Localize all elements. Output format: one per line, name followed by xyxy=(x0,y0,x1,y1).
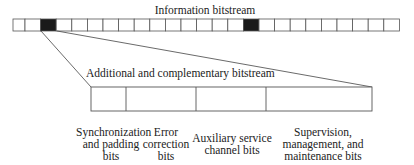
bit-cell xyxy=(275,19,291,31)
additional-bitstream-box xyxy=(91,87,372,111)
bit-cell xyxy=(306,19,322,31)
bit-cell xyxy=(321,19,337,31)
highlighted-bit-cell xyxy=(243,19,259,31)
bit-cell xyxy=(368,19,384,31)
bit-cell xyxy=(134,19,150,31)
information-bitstream-strip xyxy=(13,19,399,31)
bit-cell xyxy=(197,19,213,31)
bit-cell xyxy=(337,19,353,31)
bit-cell xyxy=(353,19,369,31)
bit-cell xyxy=(165,19,181,31)
bit-cell xyxy=(259,19,275,31)
bit-cell xyxy=(87,19,103,31)
bit-cell xyxy=(384,19,400,31)
bit-cell xyxy=(119,19,135,31)
information-bitstream-title: Information bitstream xyxy=(155,4,256,16)
segment-label-auxiliary: Auxiliary service channel bits xyxy=(190,132,274,156)
additional-bitstream-title: Additional and complementary bitstream xyxy=(86,67,275,79)
bit-cell xyxy=(72,19,88,31)
bit-cell xyxy=(228,19,244,31)
segment-label-error-correction: Error correction bits xyxy=(141,126,191,162)
bit-cell xyxy=(181,19,197,31)
bit-cell xyxy=(212,19,228,31)
segment-label-supervision: Supervision, management, and maintenance… xyxy=(277,126,369,162)
bit-cell xyxy=(13,19,25,31)
bit-cell xyxy=(103,19,119,31)
segment-label-sync: Synchronization and padding bits xyxy=(76,126,146,162)
highlighted-bit-cell xyxy=(41,19,57,31)
bit-cell xyxy=(150,19,166,31)
bit-cell xyxy=(25,19,41,31)
bit-cell xyxy=(56,19,72,31)
bit-cell xyxy=(290,19,306,31)
